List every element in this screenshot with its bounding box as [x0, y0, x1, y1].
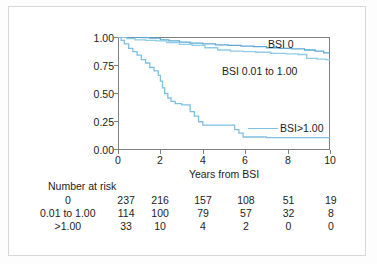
- risk-row-label: 0.01 to 1.00: [22, 207, 114, 220]
- curve-annotation-bsi-0: BSI 0: [268, 39, 294, 50]
- x-tick-label: 4: [193, 155, 213, 166]
- risk-cell: 237: [114, 194, 139, 207]
- x-tick-label: 8: [278, 155, 298, 166]
- number-at-risk-table: Number at risk 0 237 216 157 108 51 19 0…: [22, 180, 352, 233]
- survival-figure: 1.00 0.75 0.50 0.25 0.00 0 2 4 6 8 10 Ye…: [0, 0, 377, 264]
- risk-cell: 0: [310, 220, 352, 233]
- x-axis-title: Years from BSI: [118, 168, 330, 180]
- risk-cell: 19: [310, 194, 352, 207]
- risk-cell: 32: [267, 207, 309, 220]
- risk-cell: 157: [182, 194, 225, 207]
- risk-cell: 216: [139, 194, 182, 207]
- risk-row-label: >1.00: [22, 220, 114, 233]
- risk-cell: 100: [139, 207, 182, 220]
- table-row: >1.00 33 10 4 2 0 0: [22, 220, 352, 233]
- risk-cell: 10: [139, 220, 182, 233]
- x-tick-label: 6: [235, 155, 255, 166]
- curve-annotation-bsi-mid: BSI 0.01 to 1.00: [222, 66, 297, 77]
- risk-cell: 4: [182, 220, 225, 233]
- risk-cell: 2: [224, 220, 267, 233]
- risk-row-label: 0: [22, 194, 114, 207]
- table-row: 0 237 216 157 108 51 19: [22, 194, 352, 207]
- risk-cell: 114: [114, 207, 139, 220]
- risk-table-title: Number at risk: [48, 180, 352, 193]
- risk-cell: 51: [267, 194, 309, 207]
- curve-annotation-bsi-high: BSI>1.00: [280, 123, 324, 134]
- risk-cell: 33: [114, 220, 139, 233]
- risk-cell: 79: [182, 207, 225, 220]
- x-tick-label: 0: [108, 155, 128, 166]
- x-tick-label: 10: [320, 155, 340, 166]
- risk-cell: 108: [224, 194, 267, 207]
- annotation-leader-line: [248, 128, 278, 129]
- risk-cell: 0: [267, 220, 309, 233]
- x-tick-label: 2: [150, 155, 170, 166]
- risk-cell: 8: [310, 207, 352, 220]
- table-row: 0.01 to 1.00 114 100 79 57 32 8: [22, 207, 352, 220]
- risk-cell: 57: [224, 207, 267, 220]
